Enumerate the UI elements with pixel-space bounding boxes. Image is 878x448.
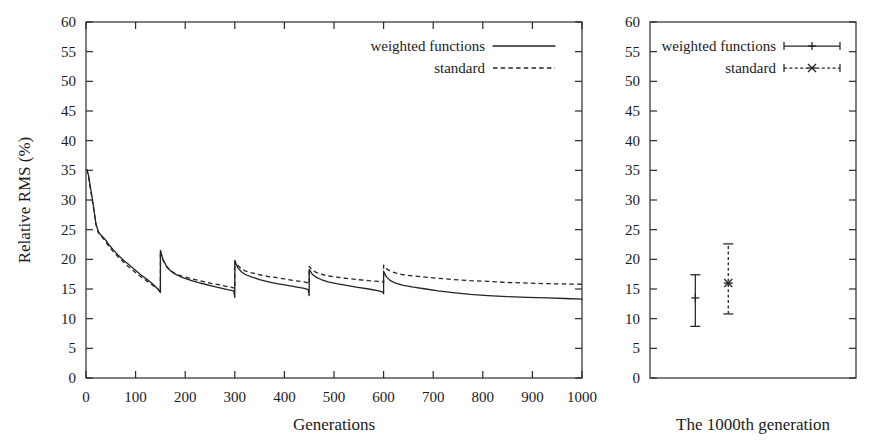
left-y-tick-label: 0 [69, 370, 77, 386]
left-y-tick-label: 55 [61, 44, 76, 60]
left-y-tick-label: 40 [61, 133, 76, 149]
left-y-tick-label: 25 [61, 222, 76, 238]
right-y-tick-label: 0 [633, 370, 641, 386]
left-series-1 [87, 170, 582, 299]
left-x-tick-label: 0 [82, 389, 90, 405]
right-chart-panel: 051015202530354045505560The 1000th gener… [625, 14, 856, 434]
left-y-tick-label: 15 [61, 281, 76, 297]
left-y-tick-label: 60 [61, 14, 76, 30]
right-y-tick-label: 5 [633, 340, 641, 356]
left-x-tick-label: 300 [224, 389, 247, 405]
right-y-tick-label: 20 [625, 251, 640, 267]
right-y-tick-label: 10 [625, 311, 640, 327]
right-y-tick-label: 30 [625, 192, 640, 208]
right-legend-label-1: weighted functions [661, 38, 776, 54]
right-y-tick-label: 35 [625, 162, 640, 178]
left-x-tick-label: 800 [472, 389, 495, 405]
left-x-tick-label: 200 [174, 389, 197, 405]
left-y-tick-label: 30 [61, 192, 76, 208]
right-y-tick-label: 50 [625, 73, 640, 89]
left-x-axis-title: Generations [293, 415, 375, 434]
chart-svg: 0510152025303540455055600100200300400500… [0, 0, 878, 448]
left-y-tick-label: 5 [69, 340, 77, 356]
left-y-tick-label: 10 [61, 311, 76, 327]
right-y-tick-label: 45 [625, 103, 640, 119]
left-y-tick-label: 35 [61, 162, 76, 178]
right-y-tick-label: 40 [625, 133, 640, 149]
left-legend-label-1: weighted functions [370, 38, 485, 54]
figure-container: 0510152025303540455055600100200300400500… [0, 0, 878, 448]
left-x-tick-label: 100 [124, 389, 147, 405]
left-x-tick-label: 400 [273, 389, 296, 405]
left-plot-frame [86, 22, 582, 378]
right-legend-label-2: standard [725, 60, 776, 76]
left-y-tick-label: 20 [61, 251, 76, 267]
left-x-tick-label: 500 [323, 389, 346, 405]
left-series-2 [87, 169, 582, 292]
left-y-axis-title: Relative RMS (%) [15, 137, 34, 264]
right-x-axis-title: The 1000th generation [676, 415, 830, 434]
left-x-tick-label: 700 [422, 389, 445, 405]
left-chart-panel: 0510152025303540455055600100200300400500… [15, 14, 597, 434]
left-legend-label-2: standard [434, 60, 485, 76]
left-x-tick-label: 900 [521, 389, 544, 405]
right-y-tick-label: 25 [625, 222, 640, 238]
right-y-tick-label: 60 [625, 14, 640, 30]
left-y-tick-label: 45 [61, 103, 76, 119]
right-y-tick-label: 55 [625, 44, 640, 60]
left-x-tick-label: 1000 [567, 389, 597, 405]
left-y-tick-label: 50 [61, 73, 76, 89]
right-y-tick-label: 15 [625, 281, 640, 297]
left-x-tick-label: 600 [372, 389, 395, 405]
